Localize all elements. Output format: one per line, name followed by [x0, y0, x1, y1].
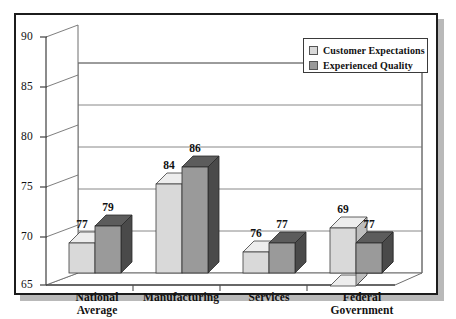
legend-swatch-customer-expectations [309, 46, 318, 55]
y-tick-label-90: 90 [7, 30, 33, 42]
legend-item-customer-expectations[interactable]: Customer Expectations [309, 43, 425, 57]
y-tick-label-85: 85 [7, 80, 33, 92]
data-label-services-experienced-quality: 77 [265, 218, 299, 230]
bar-federal-government-experienced-quality-body [356, 232, 393, 273]
x-category-label-services: Services [227, 291, 311, 304]
data-label-manufacturing-experienced-quality: 86 [178, 142, 212, 154]
y-tick-label-80: 80 [7, 130, 33, 142]
data-label-national-average-customer-expectations: 77 [65, 218, 99, 230]
data-label-manufacturing-customer-expectations: 84 [152, 159, 186, 171]
x-category-line: National [52, 291, 142, 304]
data-label-federal-government-customer-expectations: 69 [326, 203, 360, 215]
scanned-page: 90 85 80 75 70 65 National Average Manuf… [0, 0, 456, 319]
x-category-label-federal-government: Federal Government [312, 291, 412, 317]
figure-frame: 90 85 80 75 70 65 National Average Manuf… [14, 13, 438, 295]
x-category-line: Services [227, 291, 311, 304]
x-category-line: Federal [312, 291, 412, 304]
legend-swatch-experienced-quality [309, 61, 318, 70]
chart-3d-column: 90 85 80 75 70 65 National Average Manuf… [16, 15, 436, 293]
x-category-label-national-average: National Average [52, 291, 142, 317]
legend-label-customer-expectations: Customer Expectations [323, 45, 425, 56]
x-category-line: Average [52, 304, 142, 317]
x-category-line: Manufacturing [136, 291, 226, 304]
y-tick-label-65: 65 [7, 278, 33, 290]
x-category-line: Government [312, 304, 412, 317]
data-label-federal-government-experienced-quality: 77 [352, 218, 386, 230]
y-tick-label-70: 70 [7, 230, 33, 242]
legend-item-experienced-quality[interactable]: Experienced Quality [309, 58, 413, 72]
data-label-national-average-experienced-quality: 79 [91, 201, 125, 213]
chart-legend[interactable]: Customer Expectations Experienced Qualit… [303, 38, 428, 73]
x-category-label-manufacturing: Manufacturing [136, 291, 226, 304]
y-tick-label-75: 75 [7, 180, 33, 192]
legend-label-experienced-quality: Experienced Quality [323, 60, 413, 71]
